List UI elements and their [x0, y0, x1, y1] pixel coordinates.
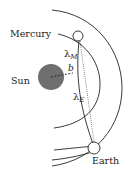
- mercury-transit-diagram: Mercury Sun Earth λM b λE: [0, 0, 130, 169]
- mercury-planet: [73, 31, 83, 41]
- outer-orbit-arc: [52, 10, 122, 166]
- sun-label: Sun: [11, 75, 30, 86]
- lambda-e-label: λE: [73, 91, 84, 104]
- sight-line-solid: [78, 41, 93, 144]
- mercury-label: Mercury: [10, 28, 52, 39]
- b-label: b: [68, 63, 74, 73]
- earth-planet: [88, 142, 100, 154]
- lambda-m-label: λM: [64, 48, 78, 61]
- earth-label: Earth: [92, 155, 119, 166]
- lower-arc: [52, 152, 92, 160]
